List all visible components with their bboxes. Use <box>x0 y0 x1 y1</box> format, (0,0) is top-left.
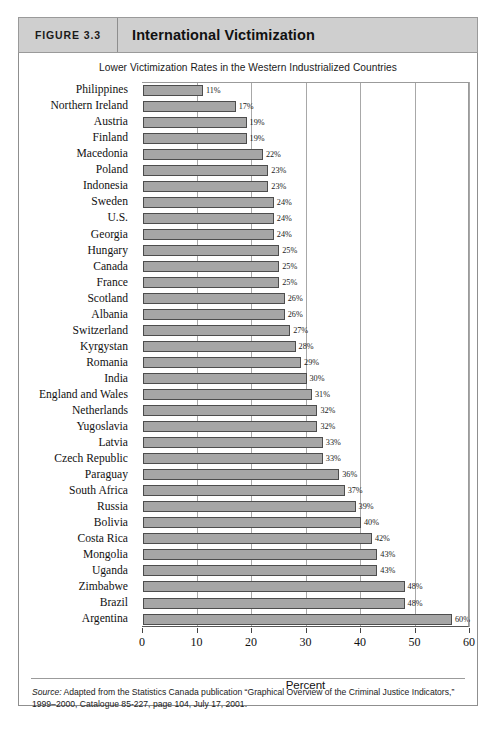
category-label: Bolivia <box>27 517 135 529</box>
bar-row: 30% <box>143 371 470 387</box>
bar-row: 48% <box>143 595 470 611</box>
bar-row: 32% <box>143 419 470 435</box>
source-text: Adapted from the Statistics Canada publi… <box>32 687 454 709</box>
bar-value-label: 48% <box>408 582 423 591</box>
bar-value-label: 22% <box>266 150 281 159</box>
bar <box>143 389 312 400</box>
figure-header: FIGURE 3.3 International Victimization <box>18 17 478 53</box>
category-label-row: Romania <box>27 355 135 371</box>
bar <box>143 309 285 320</box>
bar <box>143 341 296 352</box>
bar <box>143 357 301 368</box>
x-axis-tick <box>251 628 252 633</box>
category-label: England and Wales <box>27 389 135 401</box>
category-label: Argentina <box>27 613 135 625</box>
category-label: Hungary <box>27 245 135 257</box>
bar <box>143 453 323 464</box>
x-axis-tick-label: 60 <box>463 635 475 650</box>
figure-container: FIGURE 3.3 International Victimization L… <box>18 17 478 707</box>
category-label-row: Mongolia <box>27 547 135 563</box>
bar <box>143 469 339 480</box>
category-label: Finland <box>27 132 135 144</box>
bar-value-label: 42% <box>375 534 390 543</box>
bar-row: 31% <box>143 387 470 403</box>
category-label: India <box>27 373 135 385</box>
category-label: Austria <box>27 116 135 128</box>
chart-plot-area: PhilippinesNorthern IrelandAustriaFinlan… <box>27 82 470 653</box>
category-label-row: Hungary <box>27 242 135 258</box>
category-label: Latvia <box>27 437 135 449</box>
bar-value-label: 19% <box>250 134 265 143</box>
bar <box>143 261 279 272</box>
category-label-row: Costa Rica <box>27 531 135 547</box>
bar <box>143 213 274 224</box>
x-axis-tick <box>142 628 143 633</box>
category-label: South Africa <box>27 485 135 497</box>
category-label: Costa Rica <box>27 533 135 545</box>
bar-value-label: 36% <box>342 470 357 479</box>
x-axis-tick-label: 20 <box>245 635 257 650</box>
bar <box>143 501 356 512</box>
bar-row: 17% <box>143 98 470 114</box>
bar-value-label: 32% <box>320 422 335 431</box>
bar-value-label: 60% <box>455 615 470 624</box>
bar-value-label: 11% <box>206 86 221 95</box>
x-axis-tick-label: 40 <box>354 635 366 650</box>
bar-row: 33% <box>143 435 470 451</box>
category-label-row: South Africa <box>27 483 135 499</box>
bar-row: 19% <box>143 130 470 146</box>
bar-value-label: 17% <box>239 102 254 111</box>
category-label: Macedonia <box>27 148 135 160</box>
bar <box>143 165 268 176</box>
bar-value-label: 29% <box>304 358 319 367</box>
bar-value-label: 33% <box>326 454 341 463</box>
category-label-row: Sweden <box>27 194 135 210</box>
x-axis-tick <box>197 628 198 633</box>
bar-value-label: 32% <box>320 406 335 415</box>
bar <box>143 133 247 144</box>
category-label-row: Bolivia <box>27 515 135 531</box>
x-axis-tick <box>469 628 470 633</box>
bar-value-label: 23% <box>271 166 286 175</box>
bar-value-label: 24% <box>277 230 292 239</box>
category-label: Philippines <box>27 84 135 96</box>
x-axis-tick-label: 0 <box>139 635 145 650</box>
category-label-row: Yugoslavia <box>27 419 135 435</box>
bar <box>143 581 405 592</box>
x-axis-tick <box>415 628 416 633</box>
bar <box>143 293 285 304</box>
category-label: Mongolia <box>27 549 135 561</box>
category-label-row: Switzerland <box>27 322 135 338</box>
bar-value-label: 48% <box>408 599 423 608</box>
bar-value-label: 25% <box>282 262 297 271</box>
category-label: Brazil <box>27 597 135 609</box>
bar-row: 25% <box>143 242 470 258</box>
bar <box>143 197 274 208</box>
category-label: Scotland <box>27 293 135 305</box>
bar-row: 26% <box>143 290 470 306</box>
bar-row: 11% <box>143 82 470 98</box>
bar-value-label: 25% <box>282 278 297 287</box>
bar-row: 39% <box>143 499 470 515</box>
bar-row: 19% <box>143 114 470 130</box>
bar <box>143 437 323 448</box>
source-label: Source: <box>32 687 62 697</box>
category-label-row: Philippines <box>27 82 135 98</box>
chart-title: Lower Victimization Rates in the Western… <box>19 62 477 73</box>
category-label: Poland <box>27 164 135 176</box>
bar <box>143 373 307 384</box>
bar <box>143 598 405 609</box>
bar <box>143 533 372 544</box>
bar-value-label: 26% <box>288 294 303 303</box>
figure-title: International Victimization <box>118 27 315 43</box>
bar-row: 27% <box>143 322 470 338</box>
category-label-row: Latvia <box>27 435 135 451</box>
bar-value-label: 37% <box>348 486 363 495</box>
category-label-row: Northern Ireland <box>27 98 135 114</box>
category-label: Yugoslavia <box>27 421 135 433</box>
bar-value-label: 30% <box>310 374 325 383</box>
bar-row: 33% <box>143 451 470 467</box>
bar-value-label: 43% <box>380 566 395 575</box>
category-label-row: Scotland <box>27 290 135 306</box>
category-label: Georgia <box>27 229 135 241</box>
